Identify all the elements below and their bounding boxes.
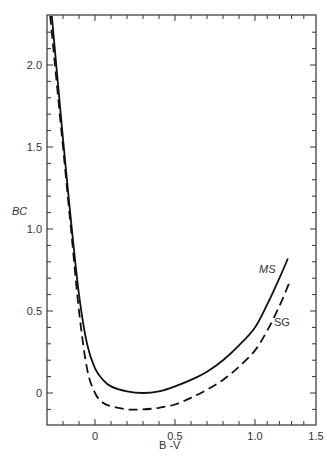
y-axis-label: BC — [12, 205, 27, 217]
x-axis-label: B -V — [159, 439, 181, 451]
bc-vs-color-chart: 00.51.01.500.51.01.52.0 MS SG B -V BC — [0, 0, 336, 462]
ms-series-label: MS — [259, 263, 276, 275]
y-tick-label: 2.0 — [27, 59, 42, 71]
sg-series-label: SG — [274, 316, 290, 328]
x-tick-label: 1.5 — [308, 430, 323, 442]
ms-curve — [52, 16, 288, 393]
axis-tick-labels: 00.51.01.500.51.01.52.0 — [27, 59, 324, 442]
y-tick-label: 1.0 — [27, 223, 42, 235]
sg-curve — [50, 16, 289, 410]
axis-ticks — [47, 15, 316, 425]
plot-frame — [47, 15, 316, 425]
y-tick-label: 1.5 — [27, 141, 42, 153]
x-tick-label: 0 — [92, 430, 98, 442]
x-tick-label: 1.0 — [247, 430, 262, 442]
y-tick-label: 0.5 — [27, 305, 42, 317]
y-tick-label: 0 — [36, 387, 42, 399]
